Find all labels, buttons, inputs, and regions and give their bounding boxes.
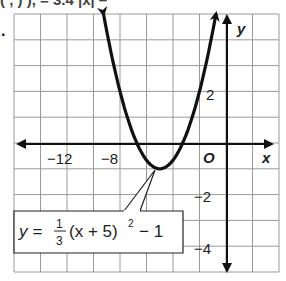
equation-lhs: y = (18, 222, 42, 241)
fraction-numerator: 1 (56, 217, 63, 231)
equation-exponent: 2 (128, 218, 134, 229)
x-axis-label: x (261, 149, 271, 166)
y-axis-label: y (236, 20, 246, 37)
parabola-graph: −12 −8 2 −2 −4 O x y y = 1 3 (x + 5) 2 −… (0, 0, 286, 281)
x-tick-label: −8 (101, 150, 118, 167)
equation-callout: y = 1 3 (x + 5) 2 − 1 (14, 170, 183, 253)
equation-tail: − 1 (139, 222, 163, 241)
y-tick-label: 2 (206, 86, 214, 103)
y-tick-label: −4 (194, 240, 211, 257)
x-tick-label: −12 (47, 150, 72, 167)
equation-body: (x + 5) (69, 222, 118, 241)
origin-label: O (203, 149, 215, 166)
y-tick-label: −2 (194, 188, 211, 205)
fraction-denominator: 3 (56, 234, 63, 248)
